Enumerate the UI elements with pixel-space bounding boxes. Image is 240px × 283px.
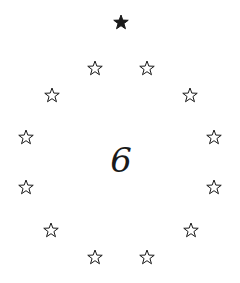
star-outline-icon — [182, 87, 198, 103]
star-outline-icon — [43, 222, 59, 238]
star-filled-icon — [113, 14, 129, 30]
star-outline-icon — [183, 222, 199, 238]
star-outline-icon — [18, 179, 34, 195]
star-outline-icon — [206, 179, 222, 195]
star-outline-icon — [18, 129, 34, 145]
center-number: 6 — [110, 143, 132, 177]
star-outline-icon — [139, 249, 155, 265]
star-outline-icon — [139, 60, 155, 76]
star-outline-icon — [87, 60, 103, 76]
star-outline-icon — [87, 249, 103, 265]
star-outline-icon — [206, 129, 222, 145]
star-outline-icon — [44, 87, 60, 103]
